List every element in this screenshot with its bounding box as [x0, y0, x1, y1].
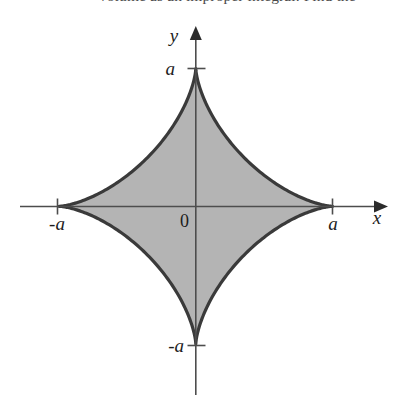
x-tick-label-a: a — [328, 213, 338, 234]
astroid-figure: y x a -a -a a 0 — [0, 0, 398, 401]
x-axis-label: x — [372, 207, 382, 228]
y-axis-label: y — [168, 25, 179, 46]
origin-label: 0 — [180, 211, 189, 231]
y-tick-label-negative-a: -a — [168, 335, 184, 356]
y-tick-label-a: a — [166, 58, 176, 79]
figure-canvas: y x a -a -a a 0 — [0, 0, 398, 401]
x-tick-label-negative-a: -a — [49, 213, 65, 234]
y-axis-arrowhead — [190, 26, 202, 40]
